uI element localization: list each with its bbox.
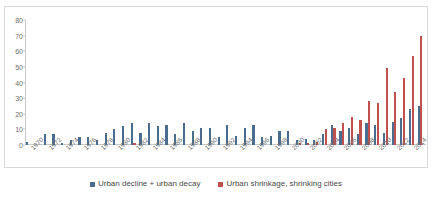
bar-category-group [269, 20, 278, 145]
y-axis-tick-label: 50 [15, 63, 23, 70]
bar-urban-shrinkage [386, 68, 388, 145]
bar-category-group [130, 20, 139, 145]
y-axis-tick-label: 70 [15, 32, 23, 39]
bar-category-group [78, 20, 87, 145]
bar-category-group [304, 20, 313, 145]
bar-category-group [209, 20, 218, 145]
legend-swatch-icon [218, 182, 223, 187]
bar-category-group [174, 20, 183, 145]
bar-category-group [26, 20, 35, 145]
legend-label: Urban decline + urban decay [98, 180, 201, 188]
legend-label: Urban shrinkage, shrinking cities [226, 180, 342, 188]
bar-category-group [365, 20, 374, 145]
bar-urban-decline [44, 134, 46, 145]
bar-urban-shrinkage [412, 56, 414, 145]
bar-category-group [52, 20, 61, 145]
bar-category-group [35, 20, 44, 145]
legend-item[interactable]: Urban shrinkage, shrinking cities [218, 180, 342, 188]
bar-urban-shrinkage [377, 103, 379, 145]
chart-legend: Urban decline + urban decayUrban shrinka… [0, 180, 432, 188]
bar-urban-shrinkage [359, 120, 361, 145]
bar-category-group [417, 20, 426, 145]
bar-category-group [400, 20, 409, 145]
bar-urban-shrinkage [403, 78, 405, 145]
chart-container: 01020304050607080 1970197219741976197819… [0, 0, 432, 201]
bar-category-group [69, 20, 78, 145]
bar-category-group [287, 20, 296, 145]
bar-category-group [383, 20, 392, 145]
y-axis-tick-label: 40 [15, 79, 23, 86]
bar-urban-decline [287, 131, 289, 145]
bar-category-group [261, 20, 270, 145]
bar-category-group [61, 20, 70, 145]
bar-urban-decline [26, 142, 28, 145]
bar-urban-shrinkage [420, 36, 422, 145]
bar-category-group [191, 20, 200, 145]
y-axis-tick-label: 20 [15, 110, 23, 117]
bar-category-group [104, 20, 113, 145]
legend-item[interactable]: Urban decline + urban decay [90, 180, 201, 188]
bar-category-group [183, 20, 192, 145]
bar-urban-shrinkage [325, 129, 327, 145]
bar-category-group [122, 20, 131, 145]
bar-category-group [409, 20, 418, 145]
y-axis-tick-label: 30 [15, 95, 23, 102]
bar-category-group [322, 20, 331, 145]
bar-category-group [87, 20, 96, 145]
bar-category-group [252, 20, 261, 145]
bar-category-group [391, 20, 400, 145]
bar-category-group [278, 20, 287, 145]
bar-category-group [148, 20, 157, 145]
bar-category-group [235, 20, 244, 145]
bar-category-group [313, 20, 322, 145]
bar-category-group [113, 20, 122, 145]
y-axis-tick-label: 10 [15, 126, 23, 133]
bar-urban-decline [113, 129, 115, 145]
legend-swatch-icon [90, 182, 95, 187]
bar-category-group [243, 20, 252, 145]
bar-urban-decline [61, 143, 63, 145]
bar-category-group [156, 20, 165, 145]
bar-category-group [43, 20, 52, 145]
bar-category-group [356, 20, 365, 145]
y-axis-tick-label: 80 [15, 17, 23, 24]
bar-category-group [374, 20, 383, 145]
bar-category-group [330, 20, 339, 145]
bar-category-group [339, 20, 348, 145]
bar-urban-shrinkage [394, 92, 396, 145]
bar-category-group [139, 20, 148, 145]
plot-area: 01020304050607080 1970197219741976197819… [26, 20, 426, 145]
bar-category-group [296, 20, 305, 145]
y-axis-tick-label: 60 [15, 48, 23, 55]
bar-category-group [348, 20, 357, 145]
bar-category-group [217, 20, 226, 145]
bar-category-group [165, 20, 174, 145]
bar-urban-shrinkage [342, 123, 344, 145]
bar-category-group [96, 20, 105, 145]
bar-category-group [226, 20, 235, 145]
bar-category-group [200, 20, 209, 145]
